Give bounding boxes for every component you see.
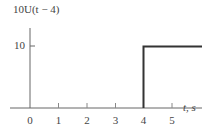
x-tick-label-1: 1 [56, 115, 62, 126]
x-tick-label-2: 2 [84, 115, 90, 126]
x-tick-label-5: 5 [169, 115, 175, 126]
x-tick-label-4: 4 [141, 115, 147, 126]
step-function-line [144, 47, 203, 109]
y-axis-label: 10U(t − 4) [13, 4, 60, 15]
x-axis-label: t, s [183, 102, 196, 113]
x-tick-label-3: 3 [113, 115, 119, 126]
x-tick-label-0: 0 [27, 115, 33, 126]
x-ticks [59, 103, 173, 108]
step-function-chart: 10U(t − 4) 10 0 1 2 3 4 5 t, s [0, 0, 219, 129]
y-tick-label-10: 10 [14, 40, 25, 51]
